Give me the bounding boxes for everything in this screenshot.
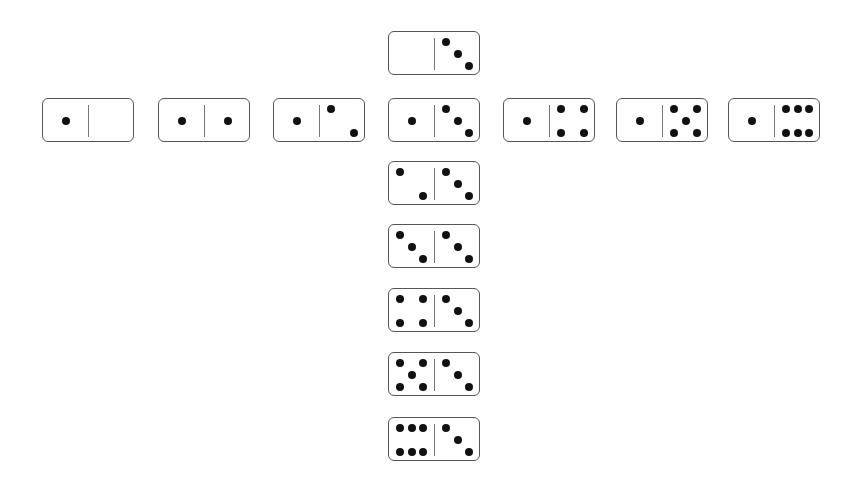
pip-icon: [396, 448, 404, 456]
domino-divider: [434, 168, 435, 200]
domino-divider: [434, 359, 435, 391]
domino-half-left: [504, 99, 549, 143]
domino-half-right: [663, 99, 708, 143]
pip-icon: [419, 383, 427, 391]
pip-icon: [442, 359, 450, 367]
domino-1-2: [273, 98, 365, 142]
domino-divider: [434, 231, 435, 263]
pip-icon: [62, 117, 70, 125]
domino-1-4: [503, 98, 595, 142]
pip-icon: [670, 105, 678, 113]
domino-half-left: [617, 99, 662, 143]
pip-icon: [682, 117, 690, 125]
pip-icon: [419, 424, 427, 432]
pip-icon: [408, 448, 416, 456]
domino-1-0: [42, 98, 134, 142]
pip-icon: [350, 129, 358, 137]
pip-icon: [293, 117, 301, 125]
pip-icon: [396, 383, 404, 391]
domino-1-5: [616, 98, 708, 142]
pip-icon: [396, 359, 404, 367]
domino-half-right: [435, 225, 480, 269]
pip-icon: [442, 168, 450, 176]
domino-2-3: [388, 161, 480, 205]
pip-icon: [782, 129, 790, 137]
domino-half-left: [389, 32, 434, 76]
pip-icon: [454, 180, 462, 188]
domino-3-3: [388, 224, 480, 268]
pip-icon: [454, 117, 462, 125]
pip-icon: [327, 105, 335, 113]
domino-half-left: [389, 289, 434, 333]
pip-icon: [396, 295, 404, 303]
domino-divider: [319, 105, 320, 137]
domino-divider: [434, 38, 435, 70]
domino-half-left: [43, 99, 88, 143]
pip-icon: [465, 192, 473, 200]
pip-icon: [442, 424, 450, 432]
pip-icon: [748, 117, 756, 125]
domino-0-3: [388, 31, 480, 75]
pip-icon: [794, 129, 802, 137]
pip-icon: [636, 117, 644, 125]
pip-icon: [465, 319, 473, 327]
domino-half-right: [435, 162, 480, 206]
domino-half-right: [550, 99, 595, 143]
pip-icon: [224, 117, 232, 125]
domino-divider: [774, 105, 775, 137]
domino-half-left: [729, 99, 774, 143]
domino-half-right: [435, 99, 480, 143]
pip-icon: [454, 243, 462, 251]
pip-icon: [408, 424, 416, 432]
pip-icon: [419, 255, 427, 263]
pip-icon: [794, 105, 802, 113]
domino-divider: [549, 105, 550, 137]
domino-half-left: [389, 225, 434, 269]
domino-half-right: [435, 353, 480, 397]
pip-icon: [419, 319, 427, 327]
domino-half-left: [159, 99, 204, 143]
pip-icon: [396, 319, 404, 327]
pip-icon: [442, 231, 450, 239]
pip-icon: [454, 436, 462, 444]
pip-icon: [419, 448, 427, 456]
pip-icon: [693, 129, 701, 137]
pip-icon: [454, 371, 462, 379]
pip-icon: [442, 38, 450, 46]
pip-icon: [523, 117, 531, 125]
domino-half-left: [389, 353, 434, 397]
pip-icon: [442, 295, 450, 303]
domino-1-1: [158, 98, 250, 142]
domino-half-left: [389, 99, 434, 143]
domino-divider: [204, 105, 205, 137]
domino-half-right: [435, 418, 480, 462]
domino-divider: [434, 424, 435, 456]
domino-half-right: [205, 99, 250, 143]
domino-divider: [88, 105, 89, 137]
pip-icon: [419, 359, 427, 367]
domino-half-left: [389, 162, 434, 206]
domino-1-6: [728, 98, 820, 142]
pip-icon: [465, 62, 473, 70]
pip-icon: [454, 307, 462, 315]
pip-icon: [465, 129, 473, 137]
pip-icon: [693, 105, 701, 113]
pip-icon: [805, 105, 813, 113]
pip-icon: [580, 105, 588, 113]
domino-half-right: [775, 99, 820, 143]
domino-divider: [662, 105, 663, 137]
domino-half-left: [274, 99, 319, 143]
pip-icon: [396, 424, 404, 432]
pip-icon: [396, 231, 404, 239]
pip-icon: [178, 117, 186, 125]
pip-icon: [557, 105, 565, 113]
domino-6-3: [388, 417, 480, 461]
pip-icon: [782, 105, 790, 113]
pip-icon: [557, 129, 565, 137]
pip-icon: [442, 105, 450, 113]
domino-half-left: [389, 418, 434, 462]
pip-icon: [408, 243, 416, 251]
pip-icon: [465, 255, 473, 263]
domino-4-3: [388, 288, 480, 332]
pip-icon: [408, 371, 416, 379]
